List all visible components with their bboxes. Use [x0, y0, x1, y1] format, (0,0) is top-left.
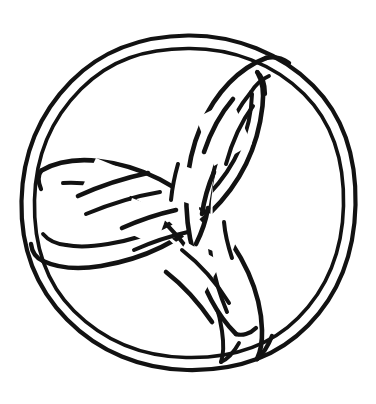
triquetra-illustration: [0, 0, 376, 404]
artboard: [0, 0, 376, 404]
